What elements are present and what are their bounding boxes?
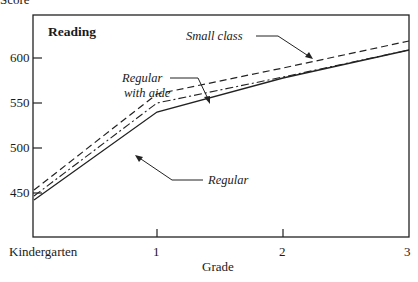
plot-frame: [33, 15, 409, 237]
y-axis: 600 550 500 450: [10, 50, 42, 200]
svg-text:Regular: Regular: [121, 71, 162, 85]
x-tick-label: 1: [153, 244, 160, 259]
x-tick-label: 3: [404, 244, 411, 259]
annotation-regular: Regular: [135, 155, 248, 187]
series-small-class: [34, 41, 409, 190]
annotation-regular-with-aide: Regular with aide: [121, 71, 210, 104]
y-tick-label: 600: [10, 50, 30, 65]
chart-svg: Score 600 550 500 450 Kindergarten 1 2 3…: [0, 0, 418, 282]
x-tick-label: Kindergarten: [9, 244, 78, 259]
x-tick-label: 2: [279, 244, 286, 259]
y-axis-title: Score: [0, 0, 30, 7]
annotation-small-class: Small class: [186, 29, 313, 59]
y-tick-label: 500: [10, 140, 30, 155]
x-axis: Kindergarten 1 2 3 Grade: [9, 229, 411, 274]
svg-text:Small class: Small class: [186, 29, 243, 43]
panel-title: Reading: [48, 24, 96, 39]
y-tick-label: 550: [10, 95, 30, 110]
x-axis-title: Grade: [202, 259, 234, 274]
y-tick-label: 450: [10, 185, 30, 200]
svg-text:with aide: with aide: [124, 86, 171, 100]
svg-text:Regular: Regular: [207, 173, 248, 187]
